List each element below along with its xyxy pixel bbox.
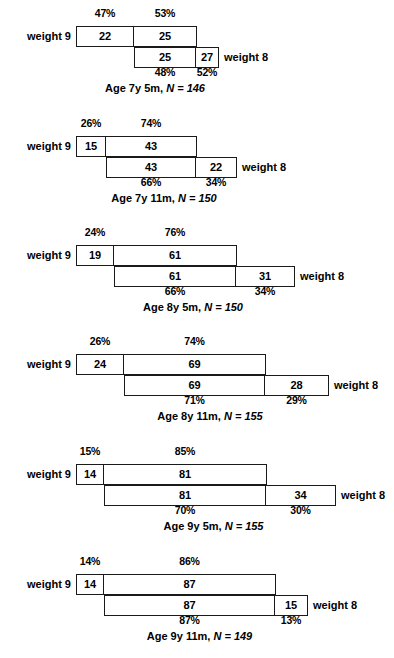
weight9-row-label: weight 9 xyxy=(27,574,71,595)
cell-count-d: 28 xyxy=(265,375,329,396)
caption-age: Age 9y 11m, xyxy=(147,630,211,642)
caption-sample-size: N = 146 xyxy=(166,82,205,94)
caption-sample-size: N = 150 xyxy=(204,301,243,313)
top-percent-right: 86% xyxy=(179,555,200,567)
top-percent-left: 26% xyxy=(81,117,102,129)
cell-count-c: 43 xyxy=(106,157,196,178)
top-percent-left: 14% xyxy=(80,555,101,567)
cell-count-c: 61 xyxy=(114,266,236,287)
cell-count-c: 69 xyxy=(124,375,265,396)
matrix-panel: 24%76%66%34%19616131weight 9weight 8Age … xyxy=(0,219,394,329)
cell-count-a: 15 xyxy=(76,136,106,157)
cell-count-d: 22 xyxy=(196,157,237,178)
cell-count-c: 87 xyxy=(104,595,275,616)
matrix-panel: 15%85%70%30%14818134weight 9weight 8Age … xyxy=(0,438,394,548)
caption-age: Age 9y 5m, xyxy=(164,520,222,532)
cell-count-a: 24 xyxy=(76,354,124,375)
panel-caption: Age 8y 11m, N = 155 xyxy=(157,409,263,423)
panel-caption: Age 7y 5m, N = 146 xyxy=(105,81,205,95)
cell-count-b: 43 xyxy=(106,136,197,157)
cell-count-a: 14 xyxy=(76,574,104,595)
weight8-row-label: weight 8 xyxy=(224,47,268,68)
top-percent-left: 26% xyxy=(90,335,111,347)
cell-count-b: 81 xyxy=(104,464,267,485)
panel-caption: Age 9y 5m, N = 155 xyxy=(164,519,264,533)
top-percent-left: 24% xyxy=(85,226,106,238)
weight8-row-label: weight 8 xyxy=(300,266,344,287)
top-percent-left: 15% xyxy=(80,445,101,457)
cell-count-d: 15 xyxy=(275,595,308,616)
cell-count-d: 27 xyxy=(196,47,219,68)
caption-age: Age 7y 11m, xyxy=(111,192,175,204)
weight9-row-label: weight 9 xyxy=(27,136,71,157)
top-percent-right: 74% xyxy=(184,335,205,347)
cell-count-b: 69 xyxy=(124,354,266,375)
top-percent-right: 76% xyxy=(165,226,186,238)
top-percent-right: 74% xyxy=(141,117,162,129)
cell-count-a: 14 xyxy=(76,464,104,485)
weight8-row-label: weight 8 xyxy=(341,485,385,506)
cell-count-b: 61 xyxy=(114,245,237,266)
matrix-panel: 26%74%66%34%15434322weight 9weight 8Age … xyxy=(0,110,394,220)
weight9-row-label: weight 9 xyxy=(27,245,71,266)
cell-count-a: 22 xyxy=(76,26,134,47)
weight9-row-label: weight 9 xyxy=(27,354,71,375)
top-percent-right: 53% xyxy=(155,7,176,19)
cell-count-a: 19 xyxy=(76,245,114,266)
cell-count-b: 25 xyxy=(134,26,197,47)
weight9-row-label: weight 9 xyxy=(27,26,71,47)
caption-age: Age 7y 5m, xyxy=(105,82,163,94)
cell-count-d: 34 xyxy=(266,485,336,506)
matrix-panel: 26%74%71%29%24696928weight 9weight 8Age … xyxy=(0,328,394,438)
top-percent-right: 85% xyxy=(175,445,196,457)
cell-count-c: 25 xyxy=(134,47,196,68)
cell-count-d: 31 xyxy=(236,266,295,287)
weight9-row-label: weight 9 xyxy=(27,464,71,485)
top-percent-left: 47% xyxy=(95,7,116,19)
panel-caption: Age 8y 5m, N = 150 xyxy=(143,300,243,314)
caption-sample-size: N = 155 xyxy=(225,520,264,532)
matrix-panel: 47%53%48%52%22252527weight 9weight 8Age … xyxy=(0,0,394,110)
matrix-panel: 14%86%87%13%14878715weight 9weight 8Age … xyxy=(0,548,394,658)
cell-count-b: 87 xyxy=(104,574,276,595)
caption-sample-size: N = 149 xyxy=(213,630,252,642)
caption-sample-size: N = 150 xyxy=(178,192,217,204)
weight8-row-label: weight 8 xyxy=(242,157,286,178)
panel-caption: Age 7y 11m, N = 150 xyxy=(111,191,217,205)
weight8-row-label: weight 8 xyxy=(334,375,378,396)
caption-age: Age 8y 11m, xyxy=(157,410,221,422)
panel-caption: Age 9y 11m, N = 149 xyxy=(147,629,253,643)
weight8-row-label: weight 8 xyxy=(313,595,357,616)
agreement-matrix-figure: 47%53%48%52%22252527weight 9weight 8Age … xyxy=(0,0,394,658)
cell-count-c: 81 xyxy=(104,485,266,506)
caption-sample-size: N = 155 xyxy=(224,410,263,422)
caption-age: Age 8y 5m, xyxy=(143,301,201,313)
